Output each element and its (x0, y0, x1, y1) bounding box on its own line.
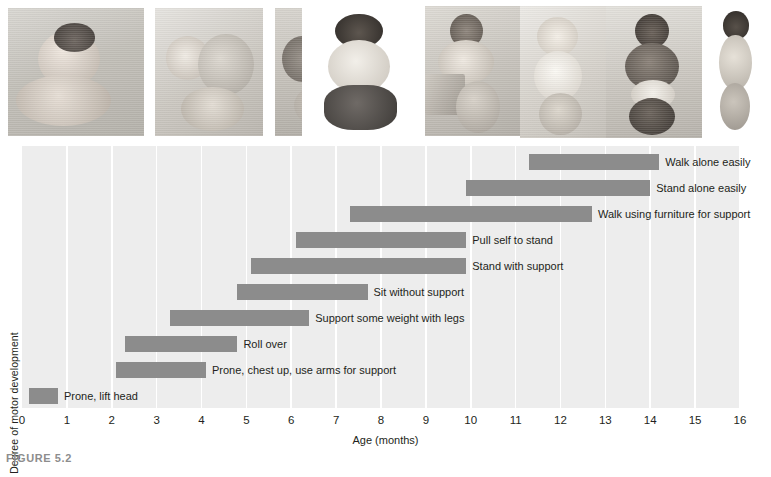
bar-label: Walk using furniture for support (598, 206, 750, 222)
infant-photo-strip (0, 0, 771, 142)
photo-infant-standing-with-support (520, 6, 606, 138)
plot-area: Walk alone easilyStand alone easilyWalk … (22, 146, 740, 408)
bar-milestone (296, 232, 467, 248)
bar-milestone (350, 206, 592, 222)
x-tick-label: 0 (19, 414, 25, 426)
x-tick-label: 3 (153, 414, 159, 426)
photo-infant-prone-lift-head (8, 8, 144, 136)
x-tick-label: 6 (288, 414, 294, 426)
bar-label: Walk alone easily (665, 154, 750, 170)
photo-infant-sitting-unsupported (300, 6, 418, 138)
bar-label: Stand with support (472, 258, 563, 274)
bar-milestone (251, 258, 466, 274)
figure-caption: FIGURE 5.2 (6, 452, 72, 462)
x-axis-line (22, 408, 740, 409)
x-tick-label: 1 (64, 414, 70, 426)
x-tick-label: 4 (198, 414, 204, 426)
gridline-month-2 (111, 146, 113, 408)
photo-infant-pulling-self-to-stand (425, 6, 521, 136)
bar-label: Sit without support (374, 284, 465, 300)
x-tick-label: 14 (644, 414, 657, 426)
photo-infant-walking-with-help (606, 6, 702, 138)
y-axis-label: Degree of motor development (6, 288, 22, 477)
bar-milestone (125, 336, 237, 352)
x-tick-label: 5 (243, 414, 249, 426)
bar-milestone (116, 362, 206, 378)
bar-milestone (170, 310, 309, 326)
x-axis-label: Age (months) (0, 434, 771, 446)
bar-milestone (466, 180, 650, 196)
gridline-month-1 (66, 146, 68, 408)
photo-infant-rolling-over (155, 8, 263, 136)
bar-milestone (29, 388, 58, 404)
x-tick-label: 10 (464, 414, 477, 426)
x-tick-label: 7 (333, 414, 339, 426)
motor-development-chart: Degree of motor development Walk alone e… (0, 142, 771, 462)
bar-label: Support some weight with legs (315, 310, 464, 326)
x-tick-label: 2 (109, 414, 115, 426)
bar-label: Roll over (243, 336, 286, 352)
x-tick-label: 8 (378, 414, 384, 426)
photo-toddler-walking-alone (706, 6, 766, 138)
bar-milestone (237, 284, 367, 300)
bar-label: Prone, lift head (64, 388, 138, 404)
x-tick-label: 12 (554, 414, 567, 426)
x-tick-label: 9 (423, 414, 429, 426)
gridline-month-9 (425, 146, 427, 408)
x-tick-label: 16 (734, 414, 747, 426)
bar-milestone (529, 154, 659, 170)
x-tick-label: 13 (599, 414, 612, 426)
x-tick-label: 11 (510, 414, 522, 426)
x-tick-label: 15 (689, 414, 702, 426)
bar-label: Stand alone easily (656, 180, 746, 196)
bar-label: Pull self to stand (472, 232, 553, 248)
bar-label: Prone, chest up, use arms for support (212, 362, 396, 378)
